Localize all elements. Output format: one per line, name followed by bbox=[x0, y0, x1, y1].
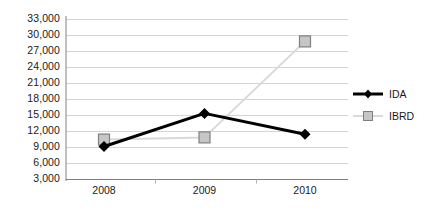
chart-legend: IDA IBRD bbox=[352, 83, 424, 127]
legend-swatch-ibrd bbox=[352, 109, 384, 123]
legend-item-ida[interactable]: IDA bbox=[352, 83, 424, 105]
legend-label-ibrd: IBRD bbox=[384, 110, 414, 122]
x-tick-label: 2009 bbox=[175, 184, 235, 196]
legend-swatch-ida bbox=[352, 87, 384, 101]
x-tick-label: 2010 bbox=[275, 184, 335, 196]
line-chart: 3,0006,0009,00012,00015,00018,00021,0002… bbox=[0, 0, 424, 210]
legend-label-ida: IDA bbox=[384, 88, 407, 100]
x-tick-label: 2008 bbox=[74, 184, 134, 196]
legend-item-ibrd[interactable]: IBRD bbox=[352, 105, 424, 127]
